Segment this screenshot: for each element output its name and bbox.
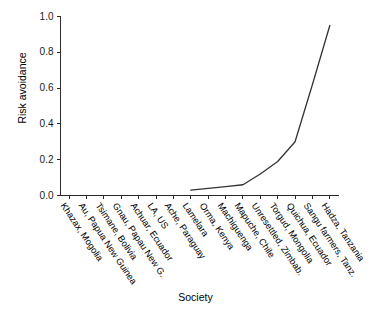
plot-area: 0.00.20.40.60.81.0 [0,0,391,322]
y-tick-label: 0.8 [40,46,54,57]
y-tick-label: 1.0 [40,11,54,22]
x-axis-title: Society [0,291,391,303]
risk-avoidance-line [191,25,330,190]
y-tick-labels: 0.00.20.40.60.81.0 [40,11,54,201]
y-tick-label: 0.4 [40,118,54,129]
y-tick-label: 0.0 [40,190,54,201]
y-axis-title: Risk avoidance [16,28,28,148]
y-tick-label: 0.2 [40,154,54,165]
x-tick-marks [69,196,330,200]
y-tick-label: 0.6 [40,82,54,93]
chart-figure: 0.00.20.40.60.81.0 Khazax, MogoliaAu, Pa… [0,0,391,322]
y-tick-marks [57,17,61,196]
